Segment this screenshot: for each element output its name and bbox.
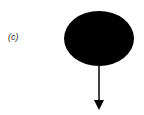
diagram-canvas	[0, 0, 144, 115]
arrow-down-icon	[94, 100, 104, 110]
node-ellipse	[64, 11, 134, 66]
